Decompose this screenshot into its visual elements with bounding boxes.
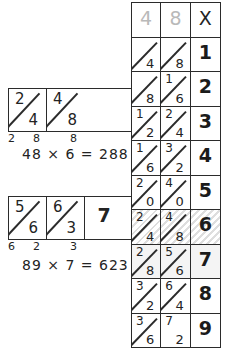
carry-digit: 2 (136, 246, 144, 258)
equation-text: 48 × 6 = 288 (22, 147, 129, 161)
product-cell-tens: 8 (132, 72, 161, 106)
unit-digit: 8 (146, 264, 154, 277)
unit-digit: 2 (175, 333, 183, 346)
times-table-48: 4 8 X 4 8 1 8 1 6 2 (131, 2, 221, 348)
carry-digit: 3 (136, 315, 144, 327)
header-cell-ones: 8 (161, 3, 190, 37)
product-cell-ones: 5 6 (161, 245, 190, 279)
product-cell-tens: 3 2 (132, 279, 161, 313)
product-cell-ones: 4 0 (161, 176, 190, 210)
product-cell-tens: 2 4 (132, 210, 161, 244)
carry-digit: 5 (165, 246, 173, 258)
product-cell-ones: 2 4 (161, 107, 190, 141)
table-row: 2 8 5 6 7 (132, 245, 220, 280)
unit-digit: 4 (175, 299, 183, 312)
lattice-cell-top-digit: 2 (15, 92, 25, 107)
multiplier-cell: 7 (191, 245, 220, 279)
header-ones-digit: 8 (161, 9, 189, 28)
unit-digit: 4 (146, 57, 154, 70)
multiplier-cell: 6 (191, 210, 220, 244)
lattice-cell: 4 8 (47, 89, 85, 131)
carry-digit: 2 (165, 108, 173, 120)
multiplier-cell: 3 (191, 107, 220, 141)
multiplier-cell: 5 (191, 176, 220, 210)
table-row: 4 8 1 (132, 38, 220, 73)
multiplier-cell: 8 (191, 279, 220, 313)
multiplier-cell: 2 (191, 72, 220, 106)
multiplier-cell: 9 (191, 314, 220, 348)
carry-digit: 1 (136, 142, 144, 154)
product-cell-ones: 7 2 (161, 314, 190, 348)
product-cell-ones: 1 6 (161, 72, 190, 106)
product-cell-ones: 8 (161, 38, 190, 72)
multiplier-value: 3 (191, 112, 220, 131)
carry-digit: 1 (165, 73, 173, 85)
unit-digit: 4 (175, 126, 183, 139)
carry-digit: 6 (165, 280, 173, 292)
table-row-highlighted: 2 4 4 8 6 (132, 210, 220, 245)
multiplier-cell: 1 (191, 38, 220, 72)
lattice-cell-top-digit: 4 (53, 92, 63, 107)
equation-text: 89 × 7 = 623 (22, 258, 129, 272)
unit-digit: 2 (146, 126, 154, 139)
table-row: 1 6 3 2 4 (132, 141, 220, 176)
multiplier-value: 2 (191, 77, 220, 96)
header-cell-multiplier: X (191, 3, 220, 37)
table-row: 1 2 2 4 3 (132, 107, 220, 142)
lattice-cell-bottom-digit: 6 (28, 221, 38, 236)
carry-digit: 2 (136, 177, 144, 189)
product-cell-ones: 3 2 (161, 141, 190, 175)
unit-digit: 6 (146, 161, 154, 174)
lattice-cell-bottom-digit: 3 (66, 221, 76, 236)
lattice-multiplier-cell: 7 (85, 197, 123, 239)
multiply-symbol-icon: X (191, 9, 220, 28)
unit-digit: 6 (175, 264, 183, 277)
header-tens-digit: 4 (132, 9, 160, 28)
multiplier-value: 8 (191, 284, 220, 303)
unit-digit: 8 (175, 57, 183, 70)
multiplier-cell: 4 (191, 141, 220, 175)
product-cell-tens: 2 8 (132, 245, 161, 279)
carry-digit: 2 (136, 211, 144, 223)
unit-digit: 6 (146, 333, 154, 346)
product-cell-tens: 1 6 (132, 141, 161, 175)
lattice-result-digit: 6 (8, 241, 15, 252)
carry-digit: 3 (165, 142, 173, 154)
multiplier-value: 1 (191, 43, 220, 62)
product-cell-tens: 3 6 (132, 314, 161, 348)
lattice-result-digit: 8 (33, 133, 40, 144)
lattice-result-digit: 3 (70, 241, 77, 252)
lattice-cell: 5 6 (9, 197, 47, 239)
table-row: 2 0 4 0 5 (132, 176, 220, 211)
multiplier-value: 4 (191, 146, 220, 165)
lattice-cell-top-digit: 5 (15, 200, 25, 215)
unit-digit: 2 (146, 299, 154, 312)
lattice-multiplier-digit: 7 (85, 206, 123, 225)
multiplier-value: 5 (191, 181, 220, 200)
lattice-cell-top-digit: 6 (53, 200, 63, 215)
unit-digit: 0 (146, 195, 154, 208)
product-cell-tens: 2 0 (132, 176, 161, 210)
product-cell-ones: 4 8 (161, 210, 190, 244)
carry-digit: 4 (165, 177, 173, 189)
unit-digit: 0 (175, 195, 183, 208)
carry-digit: 7 (165, 315, 173, 327)
product-cell-tens: 1 2 (132, 107, 161, 141)
carry-digit: 4 (165, 211, 173, 223)
table-row: 3 2 6 4 8 (132, 279, 220, 314)
table-row: 3 6 7 2 9 (132, 314, 220, 348)
lattice-cell-bottom-digit: 4 (28, 113, 38, 128)
header-cell-tens: 4 (132, 3, 161, 37)
lattice-cell: 6 3 (47, 197, 85, 239)
lattice-cell: 2 4 (9, 89, 47, 131)
carry-digit: 3 (136, 280, 144, 292)
unit-digit: 2 (175, 161, 183, 174)
lattice-result-digit: 8 (70, 133, 77, 144)
unit-digit: 8 (146, 92, 154, 105)
product-cell-tens: 4 (132, 38, 161, 72)
lattice-result-digit: 2 (8, 133, 15, 144)
multiplier-value: 7 (191, 250, 220, 269)
carry-digit: 1 (136, 108, 144, 120)
lattice-result-digit: 2 (33, 241, 40, 252)
unit-digit: 6 (175, 92, 183, 105)
